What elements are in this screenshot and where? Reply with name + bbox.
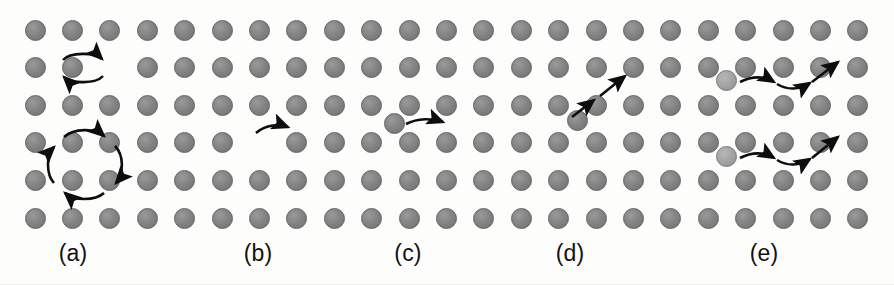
panel-label-e: (e) xyxy=(750,240,779,267)
panel-label-c: (c) xyxy=(394,240,421,267)
panel-label-a: (a) xyxy=(59,240,88,267)
panel-label-d: (d) xyxy=(556,240,585,267)
diffusion-mechanisms-figure: (a)(b)(c)(d)(e) xyxy=(0,0,894,285)
panel-label-layer: (a)(b)(c)(d)(e) xyxy=(0,0,894,285)
panel-label-b: (b) xyxy=(244,240,273,267)
